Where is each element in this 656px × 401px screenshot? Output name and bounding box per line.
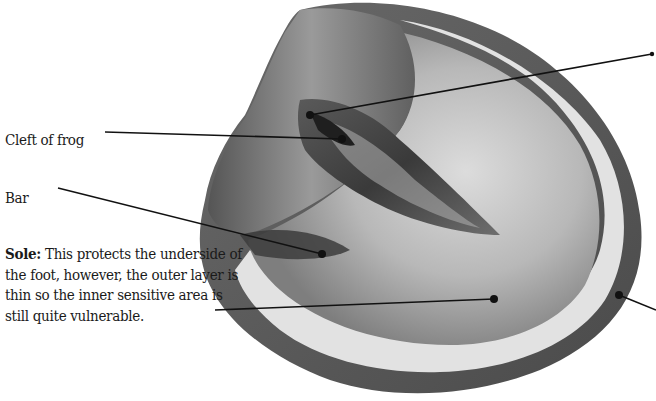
label-bar: Bar [5,188,29,209]
hoof-illustration [0,0,656,401]
bottom-right-dot [615,291,623,299]
top-right-end-dot [650,52,654,56]
label-cleft-of-frog: Cleft of frog [5,130,84,151]
label-sole: Sole: This protects the underside of the… [5,244,245,326]
top-right-dot [306,111,314,119]
cleft-of-frog-text: Cleft of frog [5,131,84,149]
sole-dot [490,295,498,303]
hoof-diagram: Cleft of frog Bar Sole: This protects th… [0,0,656,401]
bar-dot [318,250,326,258]
bar-text: Bar [5,189,29,207]
sole-term: Sole: [5,245,41,263]
cleft-dot [338,135,346,143]
sole-description: This protects the underside of the foot,… [5,245,242,325]
bottom-right-leader-line [619,295,656,310]
